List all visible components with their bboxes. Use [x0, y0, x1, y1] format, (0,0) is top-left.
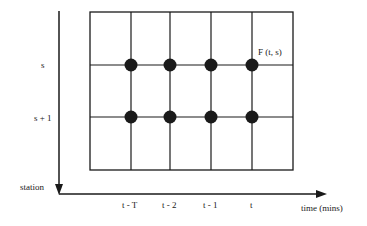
point-s1-t-T: [125, 111, 138, 124]
column-label-t: t: [250, 201, 253, 210]
point-s-t-1: [205, 59, 218, 72]
point-s-t: [246, 59, 259, 72]
grid-points: [125, 59, 259, 124]
grid-horizontal-lines: [90, 65, 293, 117]
column-label-t-1: t - 1: [203, 201, 218, 210]
y-axis-label: station: [20, 183, 44, 192]
point-s1-t-1: [205, 111, 218, 124]
point-s-t-2: [164, 59, 177, 72]
x-axis-label: time (mins): [301, 204, 343, 213]
point-s1-t-2: [164, 111, 177, 124]
column-label-t-T: t - T: [122, 201, 137, 210]
point-label: F (t, s): [258, 48, 282, 57]
column-label-t-2: t - 2: [162, 201, 177, 210]
row-label-s: s: [41, 61, 45, 70]
diagram-canvas: [0, 0, 367, 226]
row-label-s-plus-1: s + 1: [34, 114, 52, 123]
point-s-t-T: [125, 59, 138, 72]
grid-frame: [90, 12, 293, 170]
x-axis-arrow-icon: [316, 190, 327, 198]
grid-vertical-lines: [131, 12, 252, 170]
point-s1-t: [246, 111, 259, 124]
